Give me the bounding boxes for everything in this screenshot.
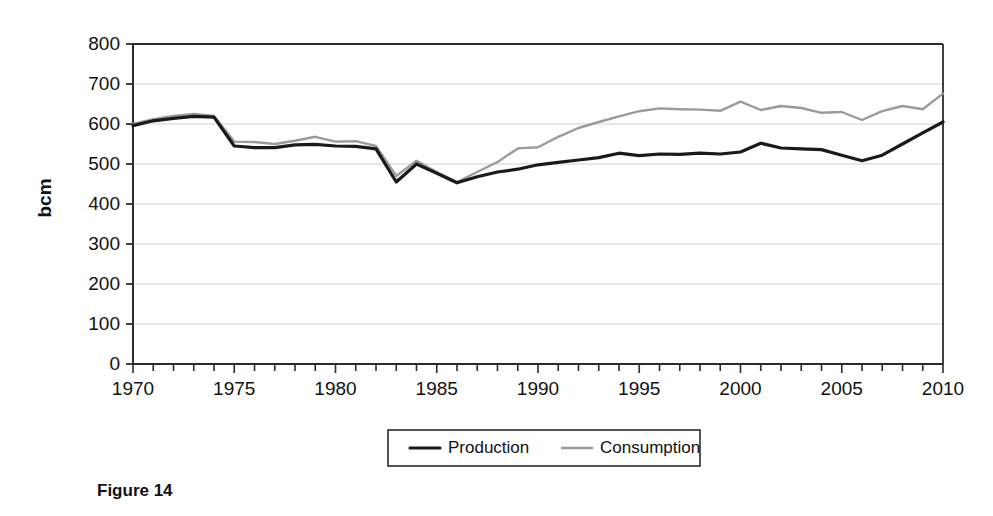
legend: ProductionConsumption (388, 430, 700, 466)
y-tick-label: 800 (88, 33, 120, 54)
x-tick-label: 1995 (618, 378, 660, 399)
y-tick-label: 400 (88, 193, 120, 214)
y-tick-label: 200 (88, 273, 120, 294)
x-tick-label: 2010 (922, 378, 964, 399)
series-line-consumption (133, 94, 943, 182)
x-tick-label: 1970 (112, 378, 154, 399)
y-axis-title: bcm (34, 178, 55, 217)
y-tick-label: 300 (88, 233, 120, 254)
y-tick-label: 100 (88, 313, 120, 334)
figure-caption: Figure 14 (97, 481, 173, 500)
x-tick-label: 1980 (314, 378, 356, 399)
line-chart: 0100200300400500600700800bcm197019751980… (0, 0, 993, 516)
legend-label-production: Production (448, 438, 529, 457)
y-tick-label: 700 (88, 73, 120, 94)
series-line-production (133, 116, 943, 182)
x-tick-label: 1985 (416, 378, 458, 399)
x-tick-label: 2005 (821, 378, 863, 399)
y-tick-label: 0 (109, 353, 120, 374)
x-tick-label: 1990 (517, 378, 559, 399)
series-group (133, 94, 943, 183)
figure-container: 0100200300400500600700800bcm197019751980… (0, 0, 993, 516)
x-tick-label: 1975 (213, 378, 255, 399)
y-tick-label: 600 (88, 113, 120, 134)
gridlines (133, 44, 943, 324)
y-axis: 0100200300400500600700800 (88, 33, 133, 374)
x-axis: 197019751980198519901995200020052010 (112, 364, 964, 399)
x-tick-label: 2000 (719, 378, 761, 399)
y-tick-label: 500 (88, 153, 120, 174)
legend-label-consumption: Consumption (600, 438, 700, 457)
